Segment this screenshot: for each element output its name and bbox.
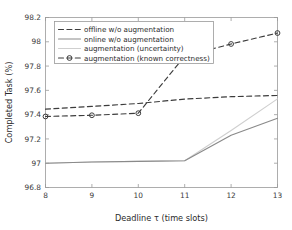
x-tick-label: 10 [134, 191, 144, 200]
y-tick-label: 97.2 [25, 135, 41, 144]
x-tick-label: 12 [226, 191, 235, 200]
y-axis-title: Completed Task (%) [4, 62, 14, 144]
legend-label-0: offline w/o augmentation [84, 25, 174, 34]
legend-label-1: online w/o augmentation [84, 35, 174, 44]
legend-label-3: augmentation (known correctness) [84, 54, 210, 63]
y-tick-label: 97.8 [25, 62, 42, 71]
y-tick-label: 97.4 [25, 110, 42, 119]
y-tick-label: 96.8 [25, 183, 42, 192]
y-tick-label: 98 [32, 37, 42, 46]
series-line-0 [46, 95, 278, 109]
x-tick-label: 8 [43, 191, 48, 200]
x-axis-title: Deadline τ (time slots) [115, 213, 208, 223]
x-tick-label: 13 [273, 191, 283, 200]
chart-canvas: 96.89797.297.497.697.89898.28910111213De… [0, 0, 292, 230]
figure: 96.89797.297.497.697.89898.28910111213De… [0, 0, 292, 230]
series-line-1 [46, 118, 278, 163]
y-tick-label: 97 [32, 159, 42, 168]
y-tick-label: 98.2 [25, 13, 41, 22]
x-tick-label: 11 [180, 191, 190, 200]
y-tick-label: 97.6 [25, 86, 42, 95]
x-tick-label: 9 [90, 191, 95, 200]
legend-label-2: augmentation (uncertainty) [84, 44, 184, 53]
